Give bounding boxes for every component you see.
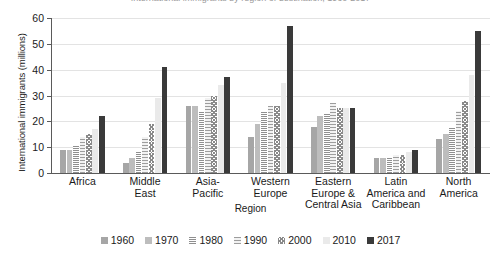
y-axis-tick-label: 20 bbox=[32, 116, 44, 127]
bar-fill bbox=[60, 150, 66, 173]
legend-item-1990[interactable]: 1990 bbox=[234, 234, 267, 246]
bar-fill bbox=[248, 137, 254, 173]
y-axis-title: International immigrants (millions) bbox=[16, 18, 27, 188]
bar-group-bars bbox=[122, 18, 167, 173]
bar-fill bbox=[67, 150, 73, 173]
bar-group bbox=[60, 18, 105, 173]
bar-fill bbox=[436, 139, 442, 173]
y-axis-tick-label: 50 bbox=[32, 39, 44, 50]
bar-fill bbox=[73, 145, 79, 173]
legend-swatch-icon bbox=[367, 237, 374, 244]
bar-group bbox=[311, 18, 356, 173]
legend-item-2000[interactable]: 2000 bbox=[278, 234, 311, 246]
bar-fill bbox=[192, 106, 198, 173]
legend-label: 1990 bbox=[244, 234, 267, 246]
bar-fill bbox=[99, 116, 105, 173]
x-axis-tick-label: North America bbox=[427, 176, 490, 199]
legend-item-1980[interactable]: 1980 bbox=[189, 234, 222, 246]
y-axis-tick-label: 60 bbox=[32, 13, 44, 24]
bar-fill bbox=[136, 152, 142, 173]
bar-fill bbox=[406, 152, 412, 173]
legend-label: 1970 bbox=[155, 234, 178, 246]
bar-fill bbox=[475, 31, 481, 173]
bar-fill bbox=[155, 98, 161, 173]
legend-label: 1960 bbox=[111, 234, 134, 246]
bar-fill bbox=[274, 106, 280, 173]
x-axis-line bbox=[51, 173, 490, 174]
bar-fill bbox=[129, 158, 135, 174]
y-axis-tick-label: 10 bbox=[32, 142, 44, 153]
bar-fill bbox=[218, 85, 224, 173]
bar-group-bars bbox=[60, 18, 105, 173]
bar-fill bbox=[374, 158, 380, 174]
bar-group-bars bbox=[436, 18, 481, 173]
immigrants-bar-chart: International immigrants by region of de… bbox=[0, 0, 501, 253]
y-axis-tick bbox=[47, 121, 51, 122]
legend-label: 2017 bbox=[377, 234, 400, 246]
bar-fill bbox=[268, 106, 274, 173]
y-axis-tick-label: 40 bbox=[32, 64, 44, 75]
bar-fill bbox=[324, 114, 330, 173]
bar-fill bbox=[199, 111, 205, 173]
y-axis-tick bbox=[47, 70, 51, 71]
bar-fill bbox=[469, 75, 475, 173]
bar-group-bars bbox=[248, 18, 293, 173]
bar-fill bbox=[281, 83, 287, 173]
plot-area: 0102030405060AfricaMiddle EastAsia- Paci… bbox=[51, 18, 490, 173]
bar-fill bbox=[142, 137, 148, 173]
bar-fill bbox=[224, 77, 230, 173]
bar-fill bbox=[343, 108, 349, 173]
legend-swatch-icon bbox=[145, 237, 152, 244]
bar-group bbox=[373, 18, 418, 173]
x-axis-tick-label: Middle East bbox=[114, 176, 177, 199]
x-axis-tick-label: Africa bbox=[51, 176, 114, 188]
bar-fill bbox=[462, 101, 468, 173]
bar-fill bbox=[92, 129, 98, 173]
x-axis-tick-label: Asia- Pacific bbox=[176, 176, 239, 199]
y-axis-tick bbox=[47, 18, 51, 19]
bar-group bbox=[248, 18, 293, 173]
legend-swatch-icon bbox=[234, 237, 241, 244]
bar-fill bbox=[255, 124, 261, 173]
bar-fill bbox=[123, 163, 129, 173]
y-axis-tick bbox=[47, 96, 51, 97]
bar-fill bbox=[443, 134, 449, 173]
bar-group-bars bbox=[311, 18, 356, 173]
bar-fill bbox=[211, 96, 217, 174]
legend-swatch-icon bbox=[323, 237, 330, 244]
legend-item-1960[interactable]: 1960 bbox=[101, 234, 134, 246]
y-axis-tick bbox=[47, 44, 51, 45]
bar-fill bbox=[287, 26, 293, 173]
legend-swatch-icon bbox=[101, 237, 108, 244]
bar-group-bars bbox=[373, 18, 418, 173]
bar-fill bbox=[412, 150, 418, 173]
y-axis-tick-label: 0 bbox=[38, 168, 44, 179]
chart-legend: 1960197019801990200020102017 bbox=[0, 234, 501, 246]
bar-group bbox=[185, 18, 230, 173]
bar-fill bbox=[400, 155, 406, 173]
bar-fill bbox=[449, 127, 455, 174]
bar-group-bars bbox=[185, 18, 230, 173]
bar-fill bbox=[380, 158, 386, 174]
x-axis-title: Region bbox=[0, 203, 501, 214]
legend-label: 1980 bbox=[199, 234, 222, 246]
legend-label: 2000 bbox=[288, 234, 311, 246]
legend-label: 2010 bbox=[333, 234, 356, 246]
bar-fill bbox=[149, 124, 155, 173]
bar-fill bbox=[311, 127, 317, 174]
bar-fill bbox=[393, 155, 399, 173]
x-axis-tick-label: Western Europe bbox=[239, 176, 302, 199]
bar-fill bbox=[350, 108, 356, 173]
bar-group bbox=[122, 18, 167, 173]
bar-fill bbox=[337, 108, 343, 173]
bar-fill bbox=[86, 134, 92, 173]
bar-fill bbox=[261, 111, 267, 173]
bar-fill bbox=[205, 98, 211, 173]
legend-item-2017[interactable]: 2017 bbox=[367, 234, 400, 246]
legend-item-2010[interactable]: 2010 bbox=[323, 234, 356, 246]
legend-swatch-icon bbox=[278, 237, 285, 244]
legend-item-1970[interactable]: 1970 bbox=[145, 234, 178, 246]
y-axis-tick-label: 30 bbox=[32, 90, 44, 101]
y-axis-tick bbox=[47, 173, 51, 174]
bar-fill bbox=[80, 137, 86, 173]
